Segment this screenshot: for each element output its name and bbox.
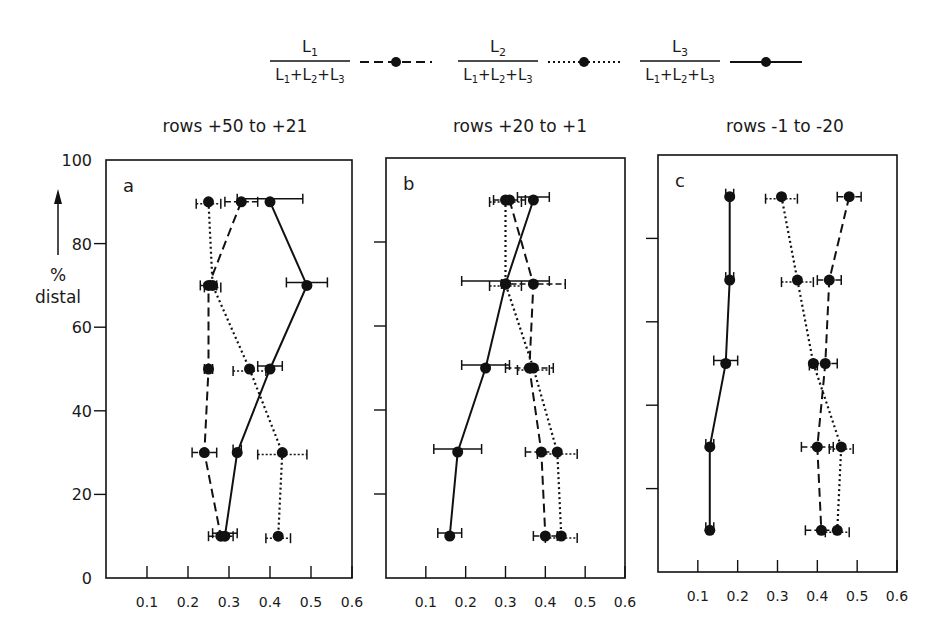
x-tick-label: 0.3 [766, 588, 788, 604]
data-point [792, 275, 803, 286]
x-tick-label: 0.6 [341, 594, 363, 610]
data-point [500, 195, 511, 206]
data-point [203, 196, 214, 207]
data-point [808, 358, 819, 369]
panel-letter: b [403, 173, 414, 194]
data-point [199, 447, 210, 458]
panel-b-title: rows +20 to +1 [453, 116, 587, 136]
svg-text:L3: L3 [672, 37, 688, 59]
data-point [844, 191, 855, 202]
x-tick-label: 0.6 [614, 594, 636, 610]
svg-text:L1: L1 [302, 37, 318, 59]
x-tick-label: 0.5 [300, 594, 322, 610]
x-tick-label: 0.6 [886, 588, 908, 604]
y-tick-label: 100 [61, 151, 92, 170]
panel-letter: a [123, 175, 134, 196]
data-point [500, 279, 511, 290]
data-point [203, 364, 214, 375]
svg-text:L1+L2+L3: L1+L2+L3 [275, 66, 344, 85]
x-tick-label: 0.1 [136, 594, 158, 610]
x-tick-label: 0.2 [727, 588, 749, 604]
data-point [528, 195, 539, 206]
panel-a-title: rows +50 to +21 [163, 116, 308, 136]
x-tick-label: 0.3 [494, 594, 516, 610]
data-point [720, 358, 731, 369]
x-tick-label: 0.2 [455, 594, 477, 610]
data-point [207, 280, 218, 291]
data-point [556, 531, 567, 542]
x-tick-label: 0.4 [259, 594, 281, 610]
legend-marker-icon [761, 57, 771, 67]
data-point [812, 441, 823, 452]
plot-frame [106, 160, 352, 578]
data-point [832, 525, 843, 536]
series-solid [213, 194, 328, 542]
data-point [704, 441, 715, 452]
data-point [836, 441, 847, 452]
x-tick-label: 0.4 [534, 594, 556, 610]
panel-a: a0.10.20.30.40.50.6020406080100 [61, 151, 363, 610]
series-dotted [490, 195, 578, 544]
data-point [528, 279, 539, 290]
y-tick-label: 80 [72, 235, 92, 254]
data-point [776, 191, 787, 202]
y-tick-label: 20 [72, 485, 92, 504]
data-point [480, 363, 491, 374]
panel-c-title: rows -1 to -20 [726, 116, 844, 136]
data-point [724, 191, 735, 202]
y-label-percent: % [50, 265, 66, 285]
y-label-distal: distal [35, 287, 81, 307]
panel-letter: c [675, 170, 685, 191]
x-tick-label: 0.3 [218, 594, 240, 610]
data-point [277, 447, 288, 458]
x-tick-label: 0.5 [846, 588, 868, 604]
legend: L1L1+L2+L3L2L1+L2+L3L3L1+L2+L3 [270, 37, 802, 85]
x-tick-label: 0.1 [415, 594, 437, 610]
data-point [724, 275, 735, 286]
x-tick-label: 0.2 [177, 594, 199, 610]
data-point [820, 358, 831, 369]
data-point [552, 447, 563, 458]
legend-item-1: L1L1+L2+L3 [270, 37, 432, 85]
svg-text:L2: L2 [490, 37, 506, 59]
panel-c: c0.10.20.30.40.50.6 [646, 155, 908, 604]
y-tick-label: 0 [82, 569, 92, 588]
data-point [704, 525, 715, 536]
data-point [528, 363, 539, 374]
x-tick-label: 0.1 [687, 588, 709, 604]
data-point [265, 196, 276, 207]
data-point [265, 364, 276, 375]
series-dotted [766, 191, 854, 537]
data-point [273, 531, 284, 542]
legend-marker-icon [391, 57, 401, 67]
y-tick-label: 40 [72, 402, 92, 421]
svg-text:L1+L2+L3: L1+L2+L3 [463, 66, 532, 85]
svg-text:L1+L2+L3: L1+L2+L3 [645, 66, 714, 85]
arrow-head-icon [54, 189, 62, 204]
data-point [232, 447, 243, 458]
data-point [244, 364, 255, 375]
legend-item-2: L2L1+L2+L3 [458, 37, 620, 85]
plot-frame [658, 155, 897, 572]
x-tick-label: 0.4 [806, 588, 828, 604]
figure: L1L1+L2+L3L2L1+L2+L3L3L1+L2+L3 rows +50 … [0, 0, 940, 637]
y-tick-label: 60 [72, 318, 92, 337]
data-point [444, 531, 455, 542]
legend-item-3: L3L1+L2+L3 [640, 37, 802, 85]
series-solid [704, 189, 737, 536]
data-point [452, 447, 463, 458]
data-point [824, 275, 835, 286]
x-tick-label: 0.5 [574, 594, 596, 610]
data-point [219, 531, 230, 542]
legend-marker-icon [579, 57, 589, 67]
data-point [301, 280, 312, 291]
panel-b: b0.10.20.30.40.50.6 [374, 158, 636, 610]
